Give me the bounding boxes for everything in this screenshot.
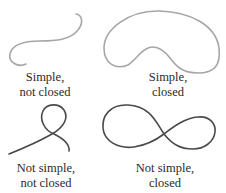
caption-simple-not-closed: Simple, not closed [0, 70, 95, 100]
caption-line: not closed [0, 85, 95, 100]
caption-line: closed [118, 85, 218, 100]
caption-line: Simple, [118, 70, 218, 85]
curve-not-simple-not-closed [9, 105, 69, 154]
caption-line: Simple, [0, 70, 95, 85]
caption-line: not closed [0, 176, 96, 191]
caption-not-simple-closed: Not simple, closed [115, 161, 215, 191]
curve-not-simple-closed [103, 105, 215, 149]
caption-line: closed [115, 176, 215, 191]
caption-line: Not simple, [0, 161, 96, 176]
curve-simple-not-closed [10, 14, 82, 65]
caption-simple-closed: Simple, closed [118, 70, 218, 100]
caption-not-simple-not-closed: Not simple, not closed [0, 161, 96, 191]
caption-line: Not simple, [115, 161, 215, 176]
curve-simple-closed [104, 11, 219, 73]
